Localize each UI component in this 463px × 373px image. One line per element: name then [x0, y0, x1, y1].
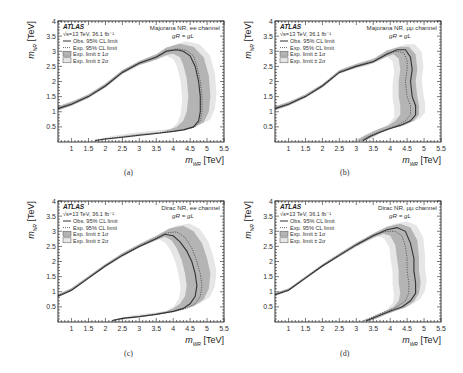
x-tick-label: 1.5 [301, 325, 311, 332]
contour-plot-c: 11.522.533.544.555.50.511.522.533.54mWR … [0, 180, 231, 366]
x-tick-label: 4 [388, 145, 392, 152]
x-tick-label: 3.5 [151, 145, 161, 152]
x-tick-label: 1 [287, 325, 291, 332]
y-tick-label: 3.5 [46, 33, 56, 40]
x-tick-label: 5.5 [436, 145, 446, 152]
energy-lumi-label: √s=13 TeV, 36.1 fb⁻¹ [280, 31, 331, 37]
channel-label: Dirac NR, ee channel [161, 204, 220, 211]
energy-lumi-label: √s=13 TeV, 36.1 fb⁻¹ [63, 211, 114, 217]
y-tick-label: 2.5 [263, 243, 273, 250]
y-tick-label: 0.5 [263, 123, 273, 130]
channel-label: Majorana NR, μμ channel [367, 24, 437, 31]
legend-band-swatch [63, 51, 71, 56]
legend-item-label: Exp. limit ± 1σ [73, 231, 109, 237]
x-tick-label: 4 [171, 145, 175, 152]
caption-c: (c) [124, 349, 133, 358]
legend-band-swatch [63, 238, 71, 243]
legend-band-swatch [280, 238, 288, 243]
x-tick-label: 2 [320, 325, 324, 332]
x-tick-label: 3.5 [151, 325, 161, 332]
coupling-label: gR = gL [172, 212, 194, 219]
x-tick-label: 3.5 [368, 145, 378, 152]
energy-lumi-label: √s=13 TeV, 36.1 fb⁻¹ [63, 31, 114, 37]
y-tick-label: 3 [52, 228, 56, 235]
x-axis-title: mWR [TeV] [402, 335, 441, 347]
y-tick-label: 3.5 [46, 213, 56, 220]
x-tick-label: 1.5 [301, 145, 311, 152]
x-tick-label: 2.5 [118, 325, 128, 332]
x-tick-label: 3 [354, 145, 358, 152]
x-tick-label: 1 [287, 145, 291, 152]
y-tick-label: 3.5 [263, 213, 273, 220]
x-tick-label: 2 [320, 145, 324, 152]
x-tick-label: 2 [103, 325, 107, 332]
x-tick-label: 2.5 [335, 325, 345, 332]
y-tick-label: 0.5 [46, 123, 56, 130]
x-tick-label: 3 [137, 145, 141, 152]
y-tick-label: 2.5 [46, 63, 56, 70]
y-tick-label: 1.5 [263, 273, 273, 280]
legend-item-label: Obs. 95% CL limit [73, 218, 118, 224]
y-tick-label: 2.5 [46, 243, 56, 250]
y-tick-label: 3.5 [263, 33, 273, 40]
x-tick-label: 4.5 [185, 325, 195, 332]
legend-item-label: Exp. limit ± 1σ [290, 231, 326, 237]
x-tick-label: 1.5 [84, 325, 94, 332]
legend-item-label: Exp. 95% CL limit [290, 225, 334, 231]
y-tick-label: 1.5 [263, 93, 273, 100]
y-tick-label: 0.5 [263, 303, 273, 310]
y-tick-label: 2 [269, 258, 273, 265]
caption-a: (a) [124, 168, 133, 177]
atlas-label: ATLAS [62, 203, 85, 210]
y-tick-label: 1.5 [46, 273, 56, 280]
legend-item-label: Obs. 95% CL limit [290, 38, 335, 44]
x-tick-label: 4 [388, 325, 392, 332]
legend-band-swatch [280, 231, 288, 236]
chart-panel-a: 11.522.533.544.555.50.511.522.533.54mWR … [0, 0, 231, 186]
chart-panel-c: 11.522.533.544.555.50.511.522.533.54mWR … [0, 180, 231, 366]
x-tick-label: 2 [103, 145, 107, 152]
legend-band-swatch [63, 231, 71, 236]
legend-band-swatch [280, 58, 288, 63]
legend-band-swatch [280, 51, 288, 56]
y-tick-label: 2.5 [263, 63, 273, 70]
y-tick-label: 1 [52, 108, 56, 115]
atlas-label: ATLAS [62, 23, 85, 30]
x-tick-label: 5 [422, 145, 426, 152]
y-tick-label: 3 [269, 48, 273, 55]
legend-item-label: Exp. 95% CL limit [73, 225, 117, 231]
y-tick-label: 1 [52, 288, 56, 295]
x-tick-label: 2.5 [335, 145, 345, 152]
y-axis-title: mNR [TeV] [243, 201, 255, 239]
x-tick-label: 4.5 [185, 145, 195, 152]
energy-lumi-label: √s=13 TeV, 36.1 fb⁻¹ [280, 211, 331, 217]
legend-item-label: Exp. 95% CL limit [290, 45, 334, 51]
coupling-label: gR = gL [389, 212, 411, 219]
legend-item-label: Exp. limit ± 2σ [290, 58, 326, 64]
caption-d: (d) [340, 349, 349, 358]
contour-plot-b: 11.522.533.544.555.50.511.522.533.54mWR … [217, 0, 448, 186]
legend-item-label: Exp. limit ± 1σ [290, 51, 326, 57]
channel-label: Dirac NR, μμ channel [378, 204, 437, 211]
y-tick-label: 4 [52, 198, 56, 205]
caption-b: (b) [340, 168, 349, 177]
coupling-label: gR = gL [389, 32, 411, 39]
chart-panel-d: 11.522.533.544.555.50.511.522.533.54mWR … [217, 180, 448, 366]
chart-panel-b: 11.522.533.544.555.50.511.522.533.54mWR … [217, 0, 448, 186]
x-tick-label: 3.5 [368, 325, 378, 332]
x-tick-label: 2.5 [118, 145, 128, 152]
contour-plot-a: 11.522.533.544.555.50.511.522.533.54mWR … [0, 0, 231, 186]
legend-item-label: Exp. limit ± 2σ [73, 238, 109, 244]
x-tick-label: 1 [70, 145, 74, 152]
y-tick-label: 0.5 [46, 303, 56, 310]
legend-item-label: Obs. 95% CL limit [290, 218, 335, 224]
x-tick-label: 1 [70, 325, 74, 332]
legend-item-label: Obs. 95% CL limit [73, 38, 118, 44]
y-tick-label: 2 [52, 78, 56, 85]
atlas-label: ATLAS [279, 203, 302, 210]
x-tick-label: 5 [205, 145, 209, 152]
x-tick-label: 3 [354, 325, 358, 332]
legend-band-swatch [63, 58, 71, 63]
x-tick-label: 5 [205, 325, 209, 332]
y-tick-label: 3 [52, 48, 56, 55]
